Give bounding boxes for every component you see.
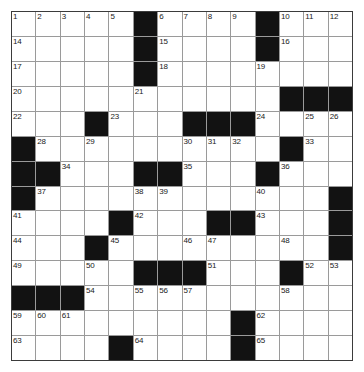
letter-cell[interactable] xyxy=(304,37,327,61)
letter-cell[interactable] xyxy=(85,87,108,111)
letter-cell[interactable] xyxy=(61,37,84,61)
letter-cell[interactable] xyxy=(304,286,327,310)
letter-cell[interactable]: 62 xyxy=(256,311,279,335)
letter-cell[interactable] xyxy=(183,62,206,86)
letter-cell[interactable]: 16 xyxy=(280,37,303,61)
letter-cell[interactable] xyxy=(134,137,157,161)
letter-cell[interactable] xyxy=(36,261,59,285)
letter-cell[interactable]: 25 xyxy=(304,112,327,136)
letter-cell[interactable] xyxy=(158,112,181,136)
letter-cell[interactable] xyxy=(36,87,59,111)
letter-cell[interactable]: 39 xyxy=(158,187,181,211)
letter-cell[interactable] xyxy=(61,87,84,111)
letter-cell[interactable] xyxy=(231,286,254,310)
letter-cell[interactable] xyxy=(158,87,181,111)
letter-cell[interactable]: 9 xyxy=(231,12,254,36)
letter-cell[interactable] xyxy=(85,62,108,86)
letter-cell[interactable] xyxy=(183,311,206,335)
letter-cell[interactable]: 33 xyxy=(304,137,327,161)
letter-cell[interactable]: 42 xyxy=(134,211,157,235)
letter-cell[interactable] xyxy=(304,311,327,335)
letter-cell[interactable] xyxy=(61,112,84,136)
letter-cell[interactable]: 21 xyxy=(134,87,157,111)
letter-cell[interactable]: 45 xyxy=(109,236,132,260)
letter-cell[interactable] xyxy=(109,187,132,211)
letter-cell[interactable] xyxy=(207,311,230,335)
letter-cell[interactable] xyxy=(280,112,303,136)
letter-cell[interactable]: 40 xyxy=(256,187,279,211)
letter-cell[interactable] xyxy=(36,62,59,86)
letter-cell[interactable]: 59 xyxy=(12,311,35,335)
letter-cell[interactable] xyxy=(109,137,132,161)
letter-cell[interactable] xyxy=(280,211,303,235)
letter-cell[interactable]: 15 xyxy=(158,37,181,61)
letter-cell[interactable] xyxy=(329,336,352,360)
letter-cell[interactable] xyxy=(183,87,206,111)
letter-cell[interactable]: 2 xyxy=(36,12,59,36)
letter-cell[interactable]: 29 xyxy=(85,137,108,161)
letter-cell[interactable]: 48 xyxy=(280,236,303,260)
letter-cell[interactable] xyxy=(231,62,254,86)
letter-cell[interactable] xyxy=(61,236,84,260)
letter-cell[interactable]: 28 xyxy=(36,137,59,161)
letter-cell[interactable]: 31 xyxy=(207,137,230,161)
letter-cell[interactable] xyxy=(158,137,181,161)
letter-cell[interactable]: 26 xyxy=(329,112,352,136)
letter-cell[interactable] xyxy=(61,211,84,235)
letter-cell[interactable]: 10 xyxy=(280,12,303,36)
letter-cell[interactable] xyxy=(207,336,230,360)
letter-cell[interactable] xyxy=(231,37,254,61)
letter-cell[interactable] xyxy=(36,336,59,360)
letter-cell[interactable] xyxy=(85,211,108,235)
letter-cell[interactable]: 53 xyxy=(329,261,352,285)
letter-cell[interactable]: 55 xyxy=(134,286,157,310)
letter-cell[interactable]: 6 xyxy=(158,12,181,36)
letter-cell[interactable]: 47 xyxy=(207,236,230,260)
letter-cell[interactable] xyxy=(36,37,59,61)
letter-cell[interactable] xyxy=(256,137,279,161)
letter-cell[interactable] xyxy=(207,37,230,61)
letter-cell[interactable]: 23 xyxy=(109,112,132,136)
letter-cell[interactable]: 41 xyxy=(12,211,35,235)
letter-cell[interactable]: 65 xyxy=(256,336,279,360)
letter-cell[interactable] xyxy=(158,236,181,260)
letter-cell[interactable] xyxy=(158,211,181,235)
letter-cell[interactable]: 32 xyxy=(231,137,254,161)
letter-cell[interactable]: 60 xyxy=(36,311,59,335)
crossword-grid[interactable]: 1234567891011121415161718192021222324252… xyxy=(11,11,353,361)
letter-cell[interactable]: 11 xyxy=(304,12,327,36)
letter-cell[interactable]: 14 xyxy=(12,37,35,61)
letter-cell[interactable] xyxy=(329,311,352,335)
letter-cell[interactable] xyxy=(256,261,279,285)
letter-cell[interactable]: 49 xyxy=(12,261,35,285)
letter-cell[interactable] xyxy=(109,87,132,111)
letter-cell[interactable]: 5 xyxy=(109,12,132,36)
letter-cell[interactable] xyxy=(256,87,279,111)
letter-cell[interactable] xyxy=(304,211,327,235)
letter-cell[interactable] xyxy=(183,336,206,360)
letter-cell[interactable]: 19 xyxy=(256,62,279,86)
letter-cell[interactable]: 18 xyxy=(158,62,181,86)
letter-cell[interactable] xyxy=(134,311,157,335)
letter-cell[interactable]: 22 xyxy=(12,112,35,136)
letter-cell[interactable]: 43 xyxy=(256,211,279,235)
letter-cell[interactable] xyxy=(109,162,132,186)
letter-cell[interactable] xyxy=(158,336,181,360)
letter-cell[interactable] xyxy=(109,286,132,310)
letter-cell[interactable] xyxy=(85,311,108,335)
letter-cell[interactable] xyxy=(329,62,352,86)
letter-cell[interactable]: 57 xyxy=(183,286,206,310)
letter-cell[interactable] xyxy=(329,37,352,61)
letter-cell[interactable] xyxy=(280,187,303,211)
letter-cell[interactable] xyxy=(231,261,254,285)
letter-cell[interactable]: 12 xyxy=(329,12,352,36)
letter-cell[interactable] xyxy=(109,37,132,61)
letter-cell[interactable] xyxy=(109,62,132,86)
letter-cell[interactable] xyxy=(207,162,230,186)
letter-cell[interactable] xyxy=(304,187,327,211)
letter-cell[interactable]: 35 xyxy=(183,162,206,186)
letter-cell[interactable] xyxy=(280,62,303,86)
letter-cell[interactable]: 3 xyxy=(61,12,84,36)
letter-cell[interactable]: 30 xyxy=(183,137,206,161)
letter-cell[interactable]: 7 xyxy=(183,12,206,36)
